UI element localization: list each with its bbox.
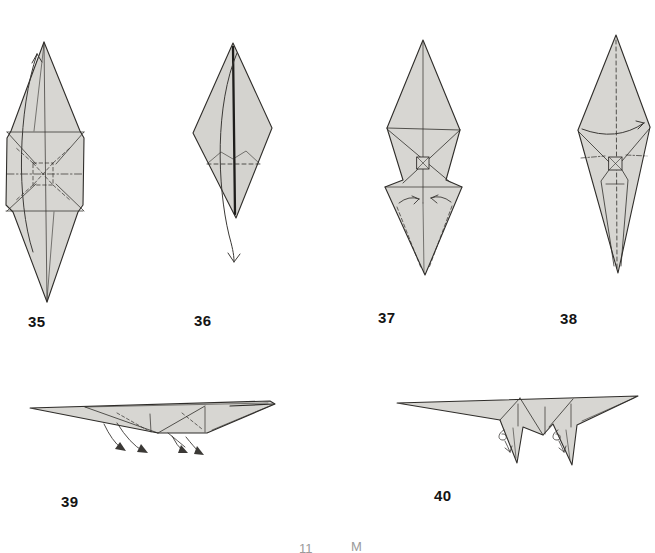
figure-38-center-square	[609, 157, 622, 170]
figure-38-outline	[578, 35, 650, 273]
step-label-36: 36	[194, 312, 212, 329]
footer-fragment-left: 11	[299, 541, 313, 553]
figure-39-arrowheads	[115, 442, 204, 455]
figure-38	[578, 35, 650, 273]
figure-35	[6, 42, 84, 302]
footer-fragment-right: M	[351, 539, 362, 552]
figure-37	[385, 40, 462, 275]
step-label-40: 40	[434, 487, 452, 504]
figure-40	[397, 396, 638, 465]
origami-diagrams-canvas	[0, 0, 655, 553]
figure-40-outline	[397, 396, 638, 465]
figure-39	[30, 401, 275, 455]
figure-37-center-square	[417, 157, 429, 169]
step-label-37: 37	[378, 309, 396, 326]
step-label-35: 35	[28, 313, 46, 330]
origami-book-page: 35 36 37 38 39 40 11 M	[0, 0, 655, 553]
step-label-38: 38	[560, 310, 578, 327]
figure-36	[193, 43, 272, 262]
step-label-39: 39	[61, 493, 79, 510]
